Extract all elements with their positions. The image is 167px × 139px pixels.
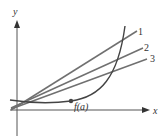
secant-diagram: y x f(a) 1 2 3 (0, 0, 167, 139)
line-label-2: 2 (144, 42, 149, 53)
y-axis-arrow-icon (14, 20, 20, 28)
x-axis-label: x (152, 105, 158, 116)
secant-line-1 (11, 31, 137, 110)
secant-line-2 (11, 48, 143, 108)
y-axis-label: y (12, 6, 18, 17)
line-label-1: 1 (138, 26, 143, 37)
x-axis-arrow-icon (142, 107, 150, 113)
point-f-a (69, 99, 73, 103)
line-label-3: 3 (150, 53, 155, 64)
f-a-label: f(a) (74, 101, 89, 113)
